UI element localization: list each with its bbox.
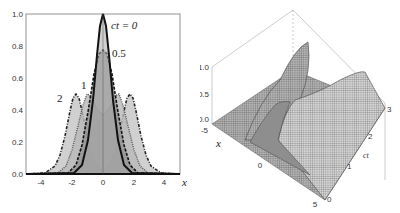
x-tick: -4: [37, 178, 45, 187]
right-chart: 1.0 0.5 0.0 -5 0 5 x 0 1 2 3 ct: [200, 0, 400, 213]
ct-tick: 2: [368, 132, 373, 141]
z-tick: 1.0: [200, 63, 210, 72]
y-tick: 0.4: [12, 106, 24, 115]
ct-axis-label: ct: [363, 151, 370, 160]
label-ct-1: 1: [81, 79, 87, 91]
left-chart: 0.0 0.2 0.4 0.6 0.8 1.0 -4 -2 0 2 4 x ct…: [0, 0, 200, 213]
surface-plot: 1.0 0.5 0.0 -5 0 5 x 0 1 2 3 ct: [200, 0, 400, 213]
x-tick: 5: [313, 200, 318, 209]
x-axis: -4 -2 0 2 4 x: [37, 176, 187, 188]
y-axis: 0.0 0.2 0.4 0.6 0.8 1.0: [12, 10, 24, 179]
ct-tick: 0: [327, 195, 332, 204]
z-axis: 1.0 0.5 0.0: [200, 63, 210, 124]
x-tick: 2: [132, 178, 137, 187]
x-tick: -5: [201, 126, 209, 135]
label-ct-2: 2: [57, 92, 63, 104]
z-tick: 0.5: [200, 90, 210, 99]
x-tick: 0: [101, 178, 106, 187]
x-axis-label: x: [181, 176, 187, 188]
y-tick: 0.2: [12, 138, 24, 147]
label-ct-0: ct = 0: [111, 19, 138, 31]
label-ct-0-5: 0.5: [112, 47, 126, 59]
z-tick: 0.0: [200, 115, 210, 124]
profile-plot: 0.0 0.2 0.4 0.6 0.8 1.0 -4 -2 0 2 4 x ct…: [0, 0, 200, 213]
y-tick: 0.8: [12, 42, 24, 51]
ct-tick: 1: [347, 162, 352, 171]
x-tick: 4: [162, 178, 167, 187]
x-axis-label: x: [215, 137, 221, 149]
y-tick: 0.0: [12, 170, 24, 179]
ct-tick: 3: [387, 105, 392, 114]
y-tick: 1.0: [12, 10, 24, 19]
y-tick: 0.6: [12, 74, 24, 83]
x-tick: -2: [68, 178, 76, 187]
x-tick: 0: [258, 161, 263, 170]
